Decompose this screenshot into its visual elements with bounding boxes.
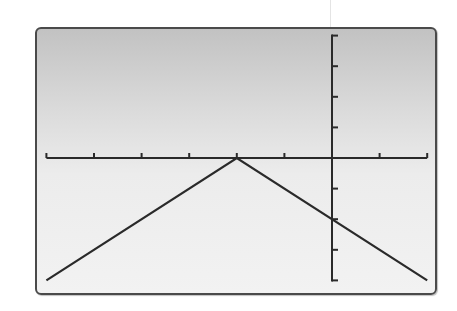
graph-plot bbox=[0, 0, 457, 311]
function-graph-line bbox=[46, 158, 427, 280]
